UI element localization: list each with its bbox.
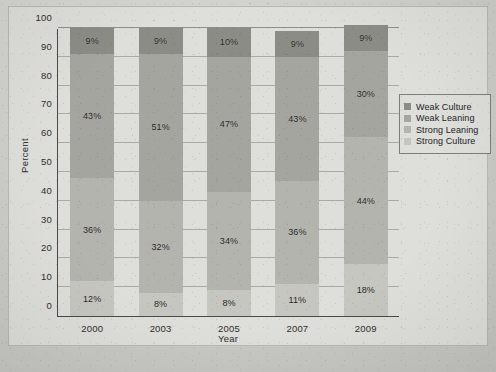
bar-segment-2005-strong-culture[interactable]: 8% (207, 290, 251, 316)
bar-segment-label: 36% (83, 225, 101, 235)
bar-segment-label: 9% (359, 33, 372, 43)
bar-segment-label: 10% (220, 37, 238, 47)
chart-legend: Weak CultureWeak LeaningStrong LeaningSt… (399, 94, 491, 154)
bar-segment-label: 8% (222, 298, 235, 308)
bar-group-2000[interactable]: 12%36%43%9%2000 (70, 29, 114, 316)
bar-segment-2007-weak-leaning[interactable]: 43% (275, 57, 319, 181)
legend-swatch-icon (404, 115, 411, 122)
bar-segment-label: 47% (220, 119, 238, 129)
legend-item-strong-leaning[interactable]: Strong Leaning (404, 125, 485, 135)
bar-segment-2000-weak-leaning[interactable]: 43% (70, 54, 114, 178)
stacked-bar-2007[interactable]: 11%36%43%9% (275, 29, 319, 316)
bar-segment-2007-strong-leaning[interactable]: 36% (275, 181, 319, 285)
stacked-bar-2003[interactable]: 8%32%51%9% (139, 29, 183, 316)
bar-segment-2007-weak-culture[interactable]: 9% (275, 31, 319, 57)
bar-segment-label: 9% (86, 36, 99, 46)
bar-segment-label: 8% (154, 299, 167, 309)
legend-item-label: Strong Leaning (416, 125, 478, 135)
bar-segment-label: 18% (357, 285, 375, 295)
y-tick-label-40: 40 (41, 184, 52, 195)
bar-segment-label: 43% (83, 111, 101, 121)
bar-segment-2009-weak-leaning[interactable]: 30% (344, 51, 388, 137)
bar-segment-2005-strong-leaning[interactable]: 34% (207, 192, 251, 290)
bar-segment-label: 9% (154, 36, 167, 46)
y-tick-label-70: 70 (41, 98, 52, 109)
bar-segment-2003-strong-leaning[interactable]: 32% (139, 201, 183, 293)
bar-segment-2003-weak-culture[interactable]: 9% (139, 28, 183, 54)
bar-group-2005[interactable]: 8%34%47%10%2005 (207, 29, 251, 316)
legend-swatch-icon (404, 126, 411, 133)
bar-segment-2009-weak-culture[interactable]: 9% (344, 25, 388, 51)
bar-segment-2009-strong-culture[interactable]: 18% (344, 264, 388, 316)
chart-figure: Percent 010203040506070809010012%36%43%9… (8, 6, 488, 346)
y-tick-label-20: 20 (41, 242, 52, 253)
bar-segment-2000-strong-culture[interactable]: 12% (70, 281, 114, 316)
bar-segment-2009-strong-leaning[interactable]: 44% (344, 137, 388, 264)
page-background: Percent 010203040506070809010012%36%43%9… (0, 0, 496, 372)
bar-group-2003[interactable]: 8%32%51%9%2003 (139, 29, 183, 316)
bar-segment-label: 12% (83, 294, 101, 304)
legend-item-weak-culture[interactable]: Weak Culture (404, 102, 485, 112)
bar-segment-2000-weak-culture[interactable]: 9% (70, 28, 114, 54)
bar-segment-2003-strong-culture[interactable]: 8% (139, 293, 183, 316)
bar-group-2009[interactable]: 18%44%30%9%2009 (344, 29, 388, 316)
bar-segment-label: 51% (151, 122, 169, 132)
bar-segment-2007-strong-culture[interactable]: 11% (275, 284, 319, 316)
bar-segment-label: 9% (291, 39, 304, 49)
y-tick-label-80: 80 (41, 69, 52, 80)
bar-segment-label: 30% (357, 89, 375, 99)
bar-segment-label: 34% (220, 236, 238, 246)
bar-segment-label: 43% (288, 114, 306, 124)
bar-segment-2005-weak-culture[interactable]: 10% (207, 28, 251, 57)
bar-segment-label: 44% (357, 196, 375, 206)
y-tick-label-100: 100 (36, 12, 52, 23)
y-tick-label-60: 60 (41, 127, 52, 138)
y-tick-label-50: 50 (41, 156, 52, 167)
x-axis-title: Year (57, 333, 399, 344)
stacked-bar-2005[interactable]: 8%34%47%10% (207, 29, 251, 316)
y-tick-label-0: 0 (47, 300, 52, 311)
y-tick-label-30: 30 (41, 213, 52, 224)
stacked-bar-2000[interactable]: 12%36%43%9% (70, 29, 114, 316)
y-axis-title: Percent (19, 138, 30, 173)
legend-item-label: Weak Leaning (416, 113, 475, 123)
legend-item-label: Strong Culture (416, 136, 475, 146)
stacked-bar-2009[interactable]: 18%44%30%9% (344, 29, 388, 316)
legend-swatch-icon (404, 138, 411, 145)
bar-segment-2005-weak-leaning[interactable]: 47% (207, 57, 251, 192)
legend-item-weak-leaning[interactable]: Weak Leaning (404, 113, 485, 123)
legend-item-label: Weak Culture (416, 102, 472, 112)
legend-swatch-icon (404, 103, 411, 110)
legend-item-strong-culture[interactable]: Strong Culture (404, 136, 485, 146)
plot-area: 010203040506070809010012%36%43%9%20008%3… (57, 29, 399, 317)
bar-segment-label: 11% (289, 295, 307, 305)
bar-segment-label: 36% (288, 227, 306, 237)
y-tick-label-10: 10 (41, 271, 52, 282)
bar-segment-2000-strong-leaning[interactable]: 36% (70, 178, 114, 282)
bar-group-2007[interactable]: 11%36%43%9%2007 (275, 29, 319, 316)
y-tick-label-90: 90 (41, 40, 52, 51)
bar-segment-2003-weak-leaning[interactable]: 51% (139, 54, 183, 201)
bar-segment-label: 32% (151, 242, 169, 252)
